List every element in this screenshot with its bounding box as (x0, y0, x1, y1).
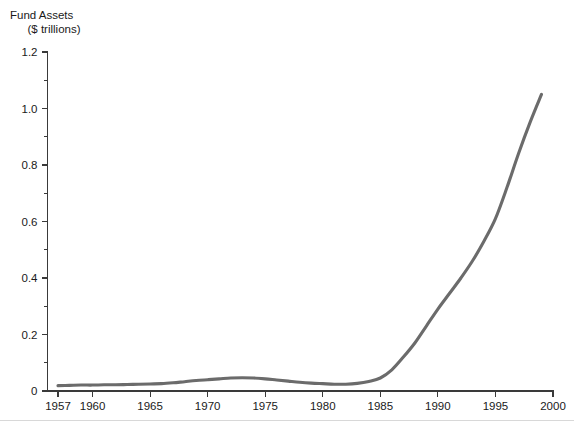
y-tick-label: 0.2 (22, 329, 38, 341)
x-tick-label: 1965 (137, 400, 163, 412)
y-tick-label: 1.0 (22, 103, 38, 115)
x-tick-label: 1995 (483, 400, 509, 412)
x-tick-label: 1970 (195, 400, 221, 412)
y-tick-label: 0.6 (22, 216, 38, 228)
y-tick-label: 0.8 (22, 159, 38, 171)
y-tick-label: 0 (31, 385, 37, 397)
x-tick-label: 1980 (310, 400, 336, 412)
x-tick-label: 1985 (368, 400, 394, 412)
x-tick-label: 1990 (425, 400, 451, 412)
data-series-group (58, 94, 541, 385)
series-line-fund-assets (58, 94, 541, 385)
x-tick-label: 1960 (80, 400, 106, 412)
line-chart-plot: 00.20.40.60.81.01.2 19571960196519701975… (0, 0, 574, 428)
y-tick-label: 0.4 (22, 272, 39, 284)
y-tick-label: 1.2 (22, 46, 38, 58)
x-axis: 1957196019651970197519801985199019952000 (45, 391, 566, 412)
x-tick-label: 1957 (45, 400, 71, 412)
x-tick-label: 1975 (252, 400, 278, 412)
footer-divider (0, 420, 574, 421)
chart-figure: Fund Assets ($ trillions) 00.20.40.60.81… (0, 0, 574, 428)
y-axis: 00.20.40.60.81.01.2 (22, 46, 48, 397)
x-tick-label: 2000 (540, 400, 566, 412)
